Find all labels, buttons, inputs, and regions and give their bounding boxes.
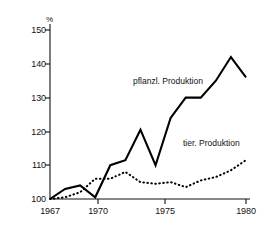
axes-group — [45, 24, 250, 204]
plot-area — [0, 0, 270, 227]
y-axis-ticks — [45, 30, 50, 165]
x-axis-ticks — [98, 199, 246, 204]
series-line-tier-produktion — [50, 160, 246, 199]
production-index-line-chart: % 150 140 130 120 110 100 1967 1970 1975… — [0, 0, 270, 227]
